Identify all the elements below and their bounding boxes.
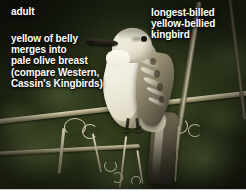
- bottom-white-strip: [0, 190, 246, 196]
- bird-identification-plate: adult yellow of belly merges into pale o…: [0, 0, 246, 196]
- caption-belly-note: yellow of belly merges into pale olive b…: [11, 33, 103, 89]
- caption-bill-note: longest-billed yellow-bellied kingbird: [151, 7, 215, 41]
- caption-age-label: adult: [11, 6, 34, 17]
